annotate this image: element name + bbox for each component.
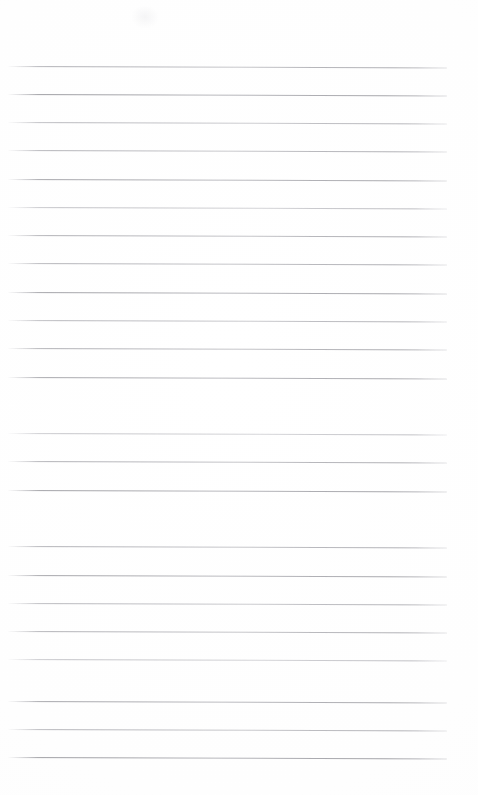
- ruled-line-ink: [8, 179, 447, 181]
- ruled-line: [8, 66, 447, 69]
- ruled-line-ink: [8, 94, 447, 96]
- ruled-line: [8, 122, 447, 124]
- ruled-line-ink: [8, 701, 447, 703]
- ruled-line-ink: [8, 433, 447, 435]
- ruled-line-ink: [8, 757, 447, 760]
- ruled-lines-group: [0, 0, 478, 795]
- ruled-line-ink: [8, 348, 447, 350]
- ruled-line: [8, 377, 447, 379]
- ruled-line-ink: [8, 546, 447, 548]
- ruled-line: [8, 179, 447, 181]
- ruled-line: [8, 575, 447, 578]
- ruled-line-ink: [8, 631, 447, 633]
- ruled-line-ink: [8, 292, 447, 294]
- ruled-line-ink: [8, 490, 447, 493]
- ruled-line: [8, 405, 447, 408]
- ruled-line: [8, 207, 447, 209]
- ruled-line: [8, 320, 447, 323]
- ruled-line-ink: [8, 235, 447, 238]
- ruled-line: [8, 490, 447, 493]
- ruled-line-ink: [8, 461, 447, 463]
- ruled-line-ink: [8, 659, 447, 662]
- ruled-line-ink: [8, 320, 447, 323]
- ruled-line-ink: [8, 122, 447, 124]
- ruled-line-ink: [8, 150, 447, 153]
- ruled-line: [8, 631, 447, 633]
- ruled-line: [8, 150, 447, 153]
- ruled-line-ink: [8, 263, 447, 265]
- ruled-line: [8, 433, 447, 435]
- ruled-line: [8, 603, 447, 605]
- ruled-line: [8, 729, 447, 731]
- ruled-line: [8, 348, 447, 350]
- ruled-line: [8, 659, 447, 662]
- ruled-line: [8, 292, 447, 294]
- ruled-line-ink: [8, 575, 447, 578]
- ruled-line-ink: [8, 603, 447, 605]
- ruled-line: [8, 94, 447, 96]
- ruled-line: [8, 461, 447, 463]
- ruled-line-ink: [8, 207, 447, 209]
- ruled-line-ink: [8, 405, 447, 408]
- scanned-page: [0, 0, 478, 795]
- ruled-line: [8, 701, 447, 703]
- ruled-line-ink: [8, 66, 447, 69]
- ruled-line: [8, 235, 447, 238]
- ruled-line: [8, 518, 447, 520]
- ruled-line-ink: [8, 377, 447, 379]
- ruled-line: [8, 263, 447, 265]
- ruled-line-ink: [8, 729, 447, 731]
- ruled-line-ink: [8, 518, 447, 520]
- ruled-line: [8, 757, 447, 760]
- ruled-line: [8, 546, 447, 548]
